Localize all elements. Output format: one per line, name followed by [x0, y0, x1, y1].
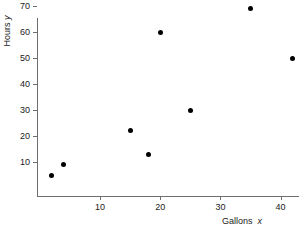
x-tick-mark [220, 196, 221, 200]
y-tick-mark [33, 6, 37, 7]
y-tick-label: 10 [6, 157, 30, 167]
x-axis-title-variable: x [258, 216, 263, 226]
y-axis-title-variable: y [2, 15, 12, 20]
data-point [290, 56, 295, 61]
y-axis-line [37, 18, 38, 197]
data-point [61, 162, 66, 167]
x-tick-label: 30 [208, 202, 232, 212]
x-tick-label: 40 [269, 202, 293, 212]
data-point [188, 108, 193, 113]
x-axis-title-text: Gallons [222, 216, 253, 226]
y-tick-label: 30 [6, 105, 30, 115]
x-tick-mark [160, 196, 161, 200]
y-tick-label: 60 [6, 27, 30, 37]
data-point [49, 173, 54, 178]
data-point [146, 152, 151, 157]
y-tick-label: 40 [6, 79, 30, 89]
y-tick-label: 50 [6, 53, 30, 63]
y-tick-mark [33, 162, 37, 163]
data-point [158, 30, 163, 35]
x-axis-line [37, 196, 299, 197]
x-tick-mark [281, 196, 282, 200]
x-tick-label: 20 [148, 202, 172, 212]
scatter-plot: Hours y Gallons x 1020304050607010203040 [0, 0, 307, 236]
x-axis-title: Gallons x [222, 216, 262, 226]
y-tick-label: 20 [6, 131, 30, 141]
y-tick-mark [33, 136, 37, 137]
y-tick-mark [33, 58, 37, 59]
y-tick-mark [33, 84, 37, 85]
data-point [248, 6, 253, 11]
y-tick-label: 70 [6, 1, 30, 11]
y-tick-mark [33, 110, 37, 111]
x-tick-label: 10 [88, 202, 112, 212]
y-tick-mark [33, 32, 37, 33]
data-point [128, 128, 133, 133]
x-tick-mark [100, 196, 101, 200]
